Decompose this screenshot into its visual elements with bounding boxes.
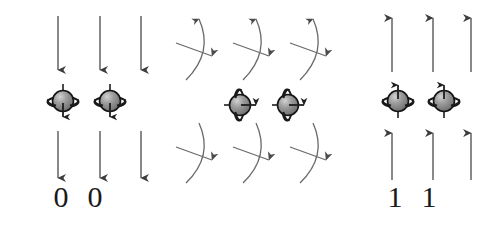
left-panel-state-labels: 0 0 <box>44 182 112 212</box>
spin-particle-down-2 <box>95 84 126 117</box>
state-digit-left-1: 0 <box>44 182 78 212</box>
state-digit-left-2: 0 <box>78 182 112 212</box>
right-panel-state-labels: 1 1 <box>378 182 446 212</box>
wave-pulse-bottom-2 <box>233 123 269 183</box>
right-panel-field-arrows-bottom <box>392 133 471 180</box>
spin-particle-up-2 <box>429 85 460 118</box>
left-panel-field-arrows-bottom <box>58 131 141 178</box>
wave-pulse-top-3 <box>290 19 326 80</box>
spin-particle-down-1 <box>48 84 79 117</box>
wave-pulse-top-1 <box>176 19 212 80</box>
state-digit-right-2: 1 <box>412 182 446 212</box>
left-panel-field-arrows-top <box>58 16 141 70</box>
spin-particle-up-1 <box>383 85 414 118</box>
diagram-canvas: 0 0 1 1 <box>0 0 490 233</box>
spin-particle-right-1 <box>224 90 256 121</box>
right-panel-field-arrows-top <box>392 18 471 72</box>
wave-pulse-bottom-3 <box>290 123 326 183</box>
spin-particle-right-2 <box>272 90 304 121</box>
wave-pulse-bottom-1 <box>176 123 212 183</box>
state-digit-right-1: 1 <box>378 182 412 212</box>
wave-pulse-top-2 <box>233 19 269 80</box>
